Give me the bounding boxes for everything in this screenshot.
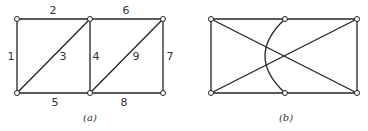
node xyxy=(161,91,166,96)
edge-label-6: 6 xyxy=(123,4,130,17)
node xyxy=(283,91,288,96)
node xyxy=(15,17,20,22)
edge-arc xyxy=(265,19,285,93)
node xyxy=(161,17,166,22)
graph-b: (b) xyxy=(209,17,360,123)
node xyxy=(209,91,214,96)
graph-figure: 1 2 3 4 5 6 7 8 9 (a) (b) xyxy=(0,0,368,131)
edge-label-5: 5 xyxy=(52,96,59,109)
edge-label-8: 8 xyxy=(121,96,128,109)
edge-label-9: 9 xyxy=(133,50,140,63)
node xyxy=(355,17,360,22)
node xyxy=(88,17,93,22)
edge-label-2: 2 xyxy=(50,4,57,17)
caption-b: (b) xyxy=(279,112,293,123)
graph-a: 1 2 3 4 5 6 7 8 9 (a) xyxy=(8,4,174,123)
node xyxy=(283,17,288,22)
node xyxy=(355,91,360,96)
edge-label-4: 4 xyxy=(93,50,100,63)
node xyxy=(15,91,20,96)
node xyxy=(209,17,214,22)
node xyxy=(88,91,93,96)
edge-3 xyxy=(17,19,90,93)
edge-label-7: 7 xyxy=(167,50,174,63)
edge-label-1: 1 xyxy=(8,50,15,63)
caption-a: (a) xyxy=(83,112,97,123)
edge-9 xyxy=(90,19,163,93)
edge-label-3: 3 xyxy=(60,50,67,63)
